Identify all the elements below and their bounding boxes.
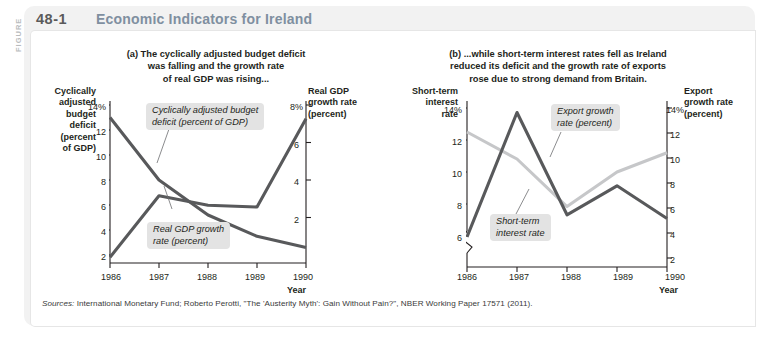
sources-line: Sources: International Monetary Fund; Ro… (42, 299, 742, 308)
panel-b-left-tick-2: 10 (434, 169, 462, 179)
panel-b-callout-export-growth: Export growth rate (percent) (551, 104, 620, 131)
panel-a-x-tick-1: 1987 (139, 272, 179, 282)
panel-a-left-tick-1: 12 (78, 127, 106, 137)
panel-a-left-tick-4: 6 (78, 202, 106, 212)
panel-a-left-tick-5: 4 (78, 227, 106, 237)
figure-word-label: FIGURE (14, 38, 60, 52)
panel-b-left-tick-3: 8 (434, 201, 462, 211)
panel-a-left-tick-6: 2 (78, 252, 106, 262)
sources-label: Sources: (42, 299, 74, 308)
panel-b-x-axis-label: Year (659, 285, 678, 295)
panel-a-x-tick-3: 1989 (235, 272, 275, 282)
panel-a-x-axis-label: Year (287, 285, 306, 295)
panel-b-callout-interest-rate: Short-term interest rate (490, 214, 551, 241)
panel-b-left-tick-1: 12 (434, 137, 462, 147)
figure-container: FIGURE 48-1 Economic Indicators for Irel… (0, 0, 763, 339)
panel-a-left-tick-3: 8 (78, 177, 106, 187)
panel-b-series-interest-rate (467, 132, 667, 207)
panel-a-callout-deficit: Cyclically adjusted budget deficit (perc… (146, 103, 264, 130)
panel-b-title: (b) ...while short-term interest rates f… (388, 48, 728, 85)
panel-a-left-axis-caption: Cyclically adjusted budget deficit (perc… (32, 86, 96, 154)
panel-b-left-axis-caption: Short-term interest rate (396, 86, 458, 120)
panel-a-x-tick-2: 1988 (187, 272, 227, 282)
panel-a-title: (a) The cyclically adjusted budget defic… (66, 48, 366, 85)
panel-a-callout-gdp-growth: Real GDP growth rate (percent) (147, 222, 230, 249)
page-title: Economic Indicators for Ireland (96, 11, 312, 27)
sources-text: International Monetary Fund; Roberto Per… (74, 299, 532, 308)
panel-a-left-tick-2: 10 (78, 152, 106, 162)
panel-a-left-tick-0: 14% (78, 102, 106, 112)
figure-number: 48-1 (36, 11, 67, 27)
panel-a-x-tick-0: 1986 (91, 272, 131, 282)
panel-b-left-tick-4: 6 (434, 233, 462, 243)
panel-a-x-tick-4: 1990 (283, 272, 323, 282)
panel-b-left-tick-0: 14% (434, 105, 462, 115)
